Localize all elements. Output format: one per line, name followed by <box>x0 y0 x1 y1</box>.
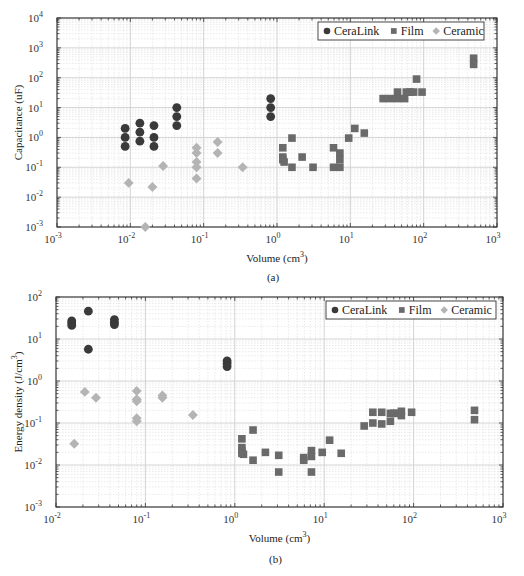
x-tick-label: 10-2 <box>117 231 135 245</box>
square-marker-icon <box>360 422 368 430</box>
diamond-marker-icon <box>158 161 168 171</box>
figure-caption: (b) <box>269 553 282 566</box>
circle-marker-icon <box>135 128 144 137</box>
circle-marker-icon <box>150 142 159 151</box>
y-tick-label: 100 <box>27 373 42 387</box>
circle-marker-icon <box>110 320 119 329</box>
y-tick-label: 10-2 <box>24 457 42 471</box>
square-marker-icon <box>318 449 326 457</box>
x-axis-label: Volume (cm3) <box>246 250 308 265</box>
square-marker-icon <box>408 408 416 416</box>
square-marker-icon <box>470 61 478 69</box>
circle-marker-icon <box>266 94 275 103</box>
series-film <box>279 54 477 171</box>
diamond-marker-icon <box>80 387 90 397</box>
x-tick-label: 102 <box>402 511 417 525</box>
square-marker-icon <box>471 416 479 424</box>
diamond-marker-icon <box>91 393 101 403</box>
y-tick-label: 10-2 <box>25 189 43 203</box>
square-marker-icon <box>351 125 359 133</box>
x-tick-label: 10-2 <box>43 511 61 525</box>
circle-marker-icon <box>67 321 76 330</box>
square-marker-icon <box>413 75 421 83</box>
x-tick-label: 10-1 <box>191 231 209 245</box>
square-marker-icon <box>418 88 426 96</box>
square-marker-icon <box>379 95 387 103</box>
legend: CeraLinkFilmCeramic <box>326 301 496 319</box>
square-marker-icon <box>238 435 246 443</box>
square-marker-icon <box>410 88 418 96</box>
circle-marker-icon <box>121 124 130 133</box>
circle-marker-icon <box>332 307 339 314</box>
grid <box>57 18 497 227</box>
y-tick-label: 10-1 <box>25 159 43 173</box>
y-tick-label: 102 <box>28 70 43 84</box>
square-marker-icon <box>298 153 306 161</box>
figure: 10-310-210-110010110210310-310-210-11001… <box>0 0 524 576</box>
square-marker-icon <box>369 408 377 416</box>
circle-marker-icon <box>135 137 144 146</box>
x-tick-label: 100 <box>266 231 281 245</box>
x-axis-label: Volume (cm3) <box>249 530 311 545</box>
circle-marker-icon <box>266 112 275 121</box>
square-marker-icon <box>288 163 296 171</box>
y-tick-label: 10-1 <box>24 415 42 429</box>
circle-marker-icon <box>266 103 275 112</box>
square-marker-icon <box>471 407 479 415</box>
circle-marker-icon <box>223 362 232 371</box>
x-tick-label: 101 <box>339 231 354 245</box>
legend-label: Film <box>401 24 424 38</box>
square-marker-icon <box>378 408 386 416</box>
square-marker-icon <box>288 134 296 142</box>
square-marker-icon <box>398 412 406 420</box>
circle-marker-icon <box>324 28 331 35</box>
square-marker-icon <box>401 95 409 103</box>
legend: CeraLinkFilmCeramic <box>318 22 484 40</box>
diamond-marker-icon <box>238 162 248 172</box>
square-marker-icon <box>309 163 317 171</box>
chart-capacitance-vs-volume: 10-310-210-110010110210310-310-210-11001… <box>12 10 501 284</box>
square-marker-icon <box>240 450 248 458</box>
circle-marker-icon <box>172 103 181 112</box>
square-marker-icon <box>378 420 386 428</box>
square-marker-icon <box>300 456 308 464</box>
square-marker-icon <box>280 158 288 166</box>
x-tick-label: 100 <box>223 511 238 525</box>
circle-marker-icon <box>121 133 130 142</box>
legend-label: CeraLink <box>334 24 379 38</box>
square-marker-icon <box>369 419 377 427</box>
series-ceralink <box>121 94 275 151</box>
legend-label: CeraLink <box>342 303 387 317</box>
square-marker-icon <box>262 449 270 457</box>
square-marker-icon <box>394 95 402 103</box>
square-marker-icon <box>326 436 334 444</box>
legend-label: Ceramic <box>443 24 484 38</box>
circle-marker-icon <box>84 345 93 354</box>
x-tick-label: 101 <box>313 511 328 525</box>
circle-marker-icon <box>150 121 159 130</box>
y-tick-label: 100 <box>28 129 43 143</box>
square-marker-icon <box>336 156 344 164</box>
y-tick-label: 104 <box>28 10 43 24</box>
circle-marker-icon <box>121 142 130 151</box>
x-tick-label: 102 <box>412 231 427 245</box>
square-marker-icon <box>336 149 344 157</box>
square-marker-icon <box>399 307 405 313</box>
square-marker-icon <box>308 468 316 476</box>
data-points <box>67 307 478 476</box>
figure-caption: (a) <box>267 271 280 284</box>
y-tick-label: 102 <box>27 289 42 303</box>
square-marker-icon <box>275 468 283 476</box>
square-marker-icon <box>360 129 368 137</box>
diamond-marker-icon <box>147 182 157 192</box>
circle-marker-icon <box>135 119 144 128</box>
square-marker-icon <box>275 452 283 460</box>
y-axis-label: Capacitance (uF) <box>12 84 25 160</box>
circle-marker-icon <box>150 133 159 142</box>
square-marker-icon <box>394 88 402 96</box>
square-marker-icon <box>308 453 316 461</box>
y-tick-label: 101 <box>28 100 43 114</box>
square-marker-icon <box>249 426 257 434</box>
x-tick-label: 103 <box>486 231 501 245</box>
chart-energy-density-vs-volume: 10-210-110010110210310-310-210-110010110… <box>10 289 507 566</box>
